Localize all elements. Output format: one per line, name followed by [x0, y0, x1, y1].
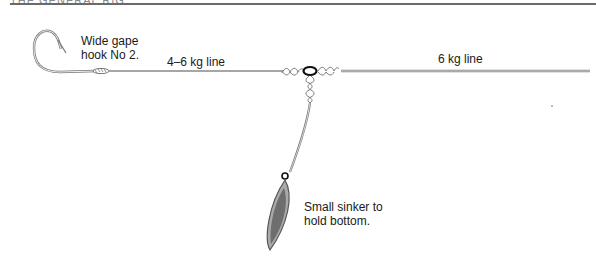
hook-label-line2: hook No 2.: [81, 48, 139, 62]
sinker-icon: [267, 173, 289, 250]
sinker-label: Small sinker to hold bottom.: [304, 200, 383, 228]
hook-knot-icon: [93, 68, 109, 73]
dropper-line: [290, 103, 310, 172]
hook-label-line1: Wide gape: [81, 34, 139, 48]
hook-label: Wide gape hook No 2.: [81, 34, 139, 62]
speck: [551, 105, 553, 107]
swivel-icon: [304, 67, 317, 75]
swivel-knot-icon: [282, 67, 339, 75]
leader-line-label: 4–6 kg line: [167, 55, 225, 69]
dropper-knot-icon: [306, 76, 314, 103]
sinker-label-line1: Small sinker to: [304, 200, 383, 214]
sinker-label-line2: hold bottom.: [304, 214, 383, 228]
main-line-label: 6 kg line: [438, 52, 483, 66]
